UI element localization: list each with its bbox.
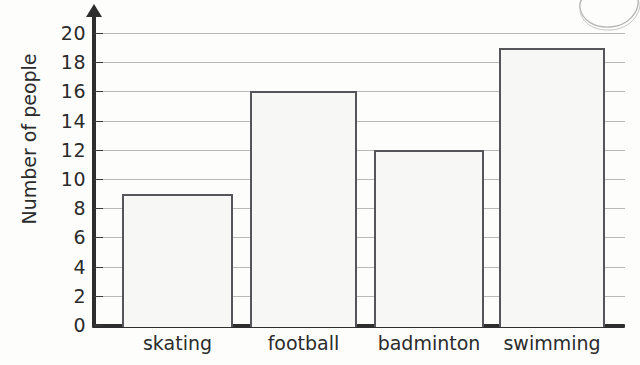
bar-badminton (374, 150, 484, 327)
y-axis-tick (94, 150, 103, 151)
bar-chart: Number of people 20181614121086420 skati… (0, 0, 640, 365)
y-axis-tick-label: 16 (52, 82, 86, 101)
bar-swimming (499, 48, 605, 327)
y-axis-tick (94, 33, 103, 34)
y-axis-tick-label: 4 (52, 258, 86, 277)
y-axis-tick (94, 179, 103, 180)
y-axis-tick (94, 208, 103, 209)
bar-football (250, 91, 357, 327)
y-axis-tick (94, 121, 103, 122)
y-axis-tick-label: 12 (52, 141, 86, 160)
category-label-skating: skating (122, 334, 233, 353)
y-axis-tick (94, 62, 103, 63)
y-axis-tick-label: 0 (52, 316, 86, 335)
y-axis-title: Number of people (18, 29, 40, 249)
y-axis-line (92, 12, 96, 327)
gridline (94, 33, 625, 34)
y-axis-tick-label: 10 (52, 170, 86, 189)
y-axis-tick (94, 325, 103, 326)
y-axis-arrow-icon (86, 4, 102, 17)
y-axis-tick-label: 18 (52, 53, 86, 72)
y-axis-tick-label: 14 (52, 112, 86, 131)
y-axis-tick-label: 8 (52, 199, 86, 218)
category-label-football: football (250, 334, 357, 353)
y-axis-tick (94, 296, 103, 297)
y-axis-tick-label: 20 (52, 24, 86, 43)
category-label-swimming: swimming (499, 334, 605, 353)
y-axis-tick (94, 91, 103, 92)
bar-skating (122, 194, 233, 327)
y-axis-tick (94, 237, 103, 238)
y-axis-tick (94, 267, 103, 268)
category-label-badminton: badminton (374, 334, 484, 353)
y-axis-tick-label: 2 (52, 287, 86, 306)
y-axis-tick-label: 6 (52, 228, 86, 247)
